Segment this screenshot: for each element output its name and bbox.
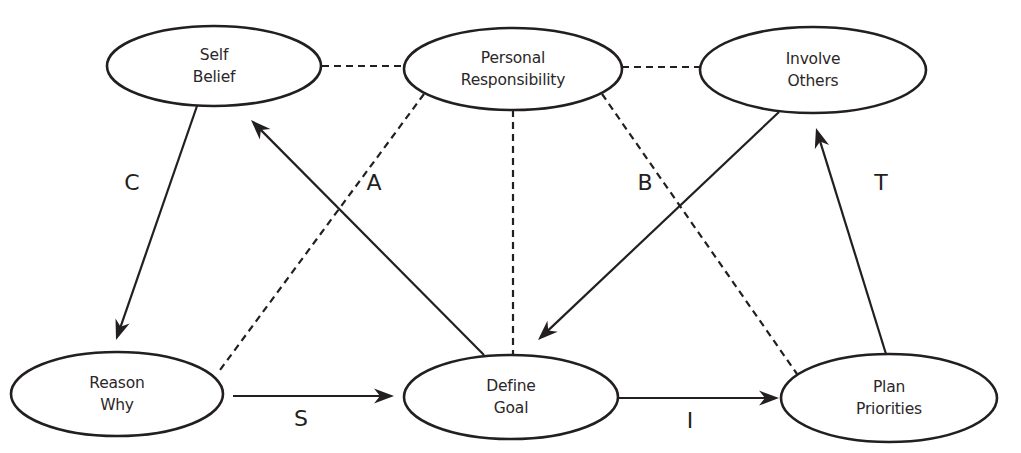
dashed-links bbox=[220, 66, 797, 374]
arrow-a-define-goal-to-self-belief bbox=[251, 120, 484, 355]
arrow-label-i: I bbox=[687, 408, 694, 433]
arrow-label-s: S bbox=[294, 406, 308, 431]
node-label-line: Responsibility bbox=[461, 71, 565, 89]
dashed-link-personal-responsibility-to-plan-priorities bbox=[602, 94, 797, 374]
arrow-label-b: B bbox=[637, 170, 652, 195]
arrow-shaft bbox=[545, 112, 779, 333]
arrow-label-t: T bbox=[873, 170, 888, 195]
arrow-i-define-goal-to-plan-priorities bbox=[618, 391, 779, 406]
node-personal-responsibility: PersonalResponsibility bbox=[404, 28, 622, 110]
arrow-shaft bbox=[258, 127, 484, 355]
node-label-line: Personal bbox=[481, 49, 545, 67]
node-self-belief: SelfBelief bbox=[107, 26, 321, 106]
node-label-line: Others bbox=[788, 72, 839, 90]
node-plan-priorities: PlanPriorities bbox=[781, 354, 997, 442]
node-label-line: Belief bbox=[193, 68, 236, 86]
node-label-line: Why bbox=[100, 396, 134, 414]
node-ellipse bbox=[781, 354, 997, 442]
node-reason-why: ReasonWhy bbox=[11, 352, 223, 436]
node-ellipse bbox=[107, 26, 321, 106]
node-label-line: Involve bbox=[786, 50, 841, 68]
node-label-line: Goal bbox=[494, 399, 529, 417]
arrow-s-reason-why-to-define-goal bbox=[233, 389, 394, 404]
arrow-label-c: C bbox=[124, 170, 139, 195]
arrow-label-a: A bbox=[366, 170, 381, 195]
achievement-cycle-diagram: SelfBeliefPersonalResponsibilityInvolveO… bbox=[0, 0, 1021, 453]
arrow-c-self-belief-to-reason-why bbox=[116, 106, 198, 340]
node-define-goal: DefineGoal bbox=[404, 355, 618, 439]
node-ellipse bbox=[404, 355, 618, 439]
node-involve-others: InvolveOthers bbox=[700, 27, 926, 113]
node-label-line: Reason bbox=[89, 374, 144, 392]
node-ellipse bbox=[700, 27, 926, 113]
node-label-line: Priorities bbox=[856, 400, 922, 418]
arrow-b-involve-others-to-define-goal bbox=[538, 112, 779, 340]
dashed-link-personal-responsibility-to-reason-why bbox=[220, 94, 424, 370]
node-label-line: Define bbox=[486, 377, 535, 395]
node-label-line: Plan bbox=[873, 378, 905, 396]
arrow-shaft bbox=[119, 106, 197, 331]
node-ellipse bbox=[11, 352, 223, 436]
node-ellipse bbox=[404, 28, 622, 110]
arrow-t-plan-priorities-to-involve-others bbox=[815, 128, 886, 354]
node-label-line: Self bbox=[200, 46, 229, 64]
